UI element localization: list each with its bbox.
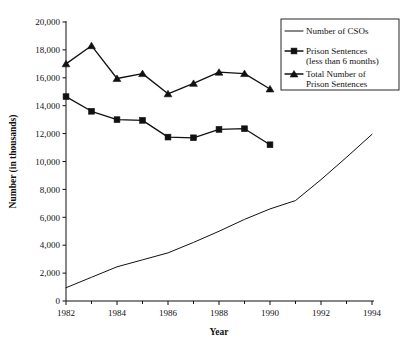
data-point-triangle <box>266 85 274 91</box>
data-point-square <box>165 134 171 140</box>
data-point-square <box>242 126 248 132</box>
x-tick-label: 1986 <box>159 308 178 318</box>
series-1 <box>66 134 372 287</box>
data-point-triangle <box>190 80 198 86</box>
x-tick-label: 1990 <box>261 308 280 318</box>
y-tick-label: 12,000 <box>35 129 60 139</box>
data-point-square <box>114 117 120 123</box>
x-tick-label: 1982 <box>57 308 75 318</box>
x-tick-label: 1988 <box>210 308 229 318</box>
data-point-triangle <box>139 70 147 76</box>
series-3 <box>62 42 274 97</box>
y-tick-label: 20,000 <box>35 17 60 27</box>
data-point-triangle <box>88 42 96 48</box>
y-tick-label: 4,000 <box>40 240 61 250</box>
legend-label-secondary: (less than 6 months) <box>306 56 379 66</box>
legend-label: Prison Sentences <box>306 46 368 56</box>
x-axis-title: Year <box>210 327 230 337</box>
y-tick-label: 2,000 <box>40 268 61 278</box>
y-axis-tick-labels: 02,0004,0006,0008,00010,00012,00014,0001… <box>35 17 60 306</box>
data-point-square <box>140 117 146 123</box>
legend-marker-square <box>291 48 297 54</box>
data-point-square <box>89 108 95 114</box>
series-line <box>66 46 270 94</box>
y-tick-label: 18,000 <box>35 45 60 55</box>
x-axis-tick-labels: 1982198419861988199019921994 <box>57 308 382 318</box>
y-tick-label: 10,000 <box>35 157 60 167</box>
series-line <box>66 134 372 287</box>
x-tick-label: 1992 <box>312 308 330 318</box>
data-point-square <box>63 94 69 100</box>
y-tick-label: 14,000 <box>35 101 60 111</box>
y-tick-label: 8,000 <box>40 185 61 195</box>
y-tick-label: 0 <box>56 296 61 306</box>
line-chart: 02,0004,0006,0008,00010,00012,00014,0001… <box>0 0 402 348</box>
legend-label: Total Number of <box>306 69 366 79</box>
data-point-square <box>216 127 222 133</box>
y-tick-label: 16,000 <box>35 73 60 83</box>
legend-label: Number of CSOs <box>306 26 369 36</box>
data-point-square <box>267 142 273 148</box>
legend-label-secondary: Prison Sentences <box>306 79 368 89</box>
chart-legend: Number of CSOsPrison Sentences(less than… <box>281 19 399 90</box>
y-axis-title: Number (in thousands) <box>8 115 19 209</box>
x-axis-tick-marks <box>66 301 372 305</box>
x-tick-label: 1994 <box>363 308 382 318</box>
y-tick-label: 6,000 <box>40 213 61 223</box>
data-point-square <box>191 135 197 141</box>
chart-figure: 02,0004,0006,0008,00010,00012,00014,0001… <box>0 0 402 348</box>
series-2 <box>63 94 273 148</box>
x-tick-label: 1984 <box>108 308 127 318</box>
